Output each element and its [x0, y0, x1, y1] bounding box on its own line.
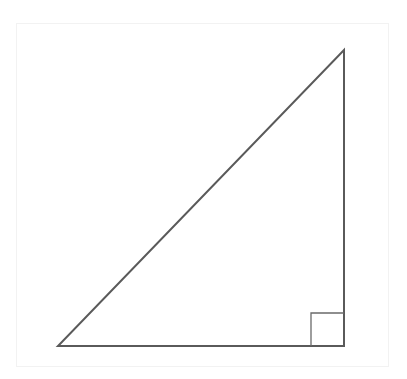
right-triangle — [58, 50, 344, 346]
right-angle-marker — [311, 313, 344, 346]
triangle-diagram — [0, 0, 407, 379]
